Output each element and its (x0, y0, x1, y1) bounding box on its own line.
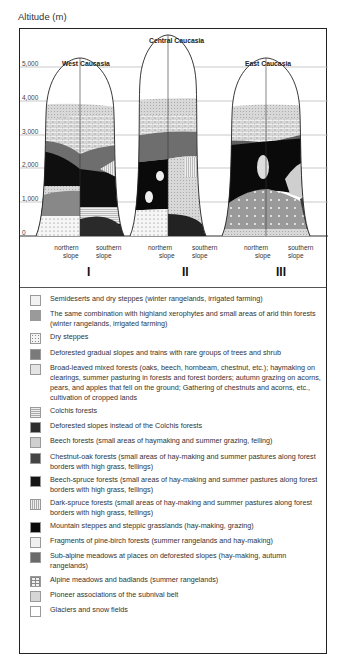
colchis-swatch-icon (30, 407, 41, 418)
tick-4000: 4,000 (22, 94, 38, 101)
legend-item: Chestnut-oak forests (small areas of hay… (30, 452, 326, 472)
deforested-gradual-swatch-icon (30, 349, 41, 360)
roman-numeral-west: I (87, 265, 90, 279)
legend-item: Semideserts and dry steppes (winter rang… (30, 294, 326, 306)
dark-spruce-swatch-icon (30, 499, 41, 510)
legend-item: Beech forests (small areas of haymaking … (30, 436, 326, 448)
semidesert-swatch-icon (30, 295, 41, 306)
legend: Semideserts and dry steppes (winter rang… (30, 294, 326, 620)
legend-item: Deforested gradual slopes and trains wit… (30, 348, 326, 360)
beech-spruce-swatch-icon (30, 476, 41, 487)
slope-label-west-north: northernslope (52, 244, 79, 260)
legend-item: Dark-spruce forests (small areas of hay-… (30, 498, 326, 518)
legend-item: Glaciers and snow fields (30, 605, 326, 617)
region-title-east: East Caucasia (245, 60, 291, 67)
slope-label-central-south: southernslope (192, 244, 217, 260)
slope-label-east-south: southernslope (288, 244, 313, 260)
tick-3000: 3,000 (22, 128, 38, 135)
slope-label-west-south: southernslope (96, 244, 121, 260)
beech-swatch-icon (30, 437, 41, 448)
legend-item: Colchis forests (30, 406, 326, 418)
legend-divider (20, 287, 326, 288)
y-axis-label: Altitude (m) (18, 11, 67, 22)
legend-item: Deforested slopes instead of the Colchis… (30, 421, 326, 433)
subalpine-swatch-icon (30, 552, 41, 563)
legend-item: Broad-leaved mixed forests (oaks, beech,… (30, 363, 326, 403)
region-title-central: Central Caucasia (149, 37, 204, 44)
legend-item: Dry steppes (30, 332, 326, 344)
slope-label-central-north: northernslope (148, 244, 175, 260)
pine-birch-swatch-icon (30, 537, 41, 548)
legend-item: Alpine meadows and badlands (summer rang… (30, 575, 326, 587)
dry-steppes-swatch-icon (30, 333, 41, 344)
diagram-frame: 5,000 4,000 3,000 2,000 1,000 0 West Cau… (19, 28, 327, 654)
legend-item: The same combination with highland xerop… (30, 309, 326, 329)
region-title-west: West Caucasia (62, 60, 110, 67)
roman-numeral-east: III (276, 265, 286, 279)
xerophytes-swatch-icon (30, 310, 41, 321)
legend-item: Fragments of pine-birch forests (summer … (30, 536, 326, 548)
pioneer-swatch-icon (30, 591, 41, 602)
legend-item: Sub-alpine meadows at places on deforest… (30, 551, 326, 571)
broadleaved-swatch-icon (30, 364, 41, 375)
tick-0: 0 (22, 229, 26, 236)
glacier-swatch-icon (30, 606, 41, 617)
chestnut-oak-swatch-icon (30, 453, 41, 464)
slope-label-east-north: northernslope (244, 244, 271, 260)
legend-item: Beech-spruce forests (small areas of hay… (30, 475, 326, 495)
tick-5000: 5,000 (22, 60, 38, 67)
deforested-colchis-swatch-icon (30, 422, 41, 433)
tick-2000: 2,000 (22, 161, 38, 168)
legend-item: Mountain steppes and steppic grasslands … (30, 521, 326, 533)
alpine-swatch-icon (30, 576, 41, 587)
tick-1000: 1,000 (22, 195, 38, 202)
mountain-steppe-swatch-icon (30, 522, 41, 533)
legend-item: Pioneer associations of the subnival bel… (30, 590, 326, 602)
roman-numeral-central: II (182, 265, 189, 279)
